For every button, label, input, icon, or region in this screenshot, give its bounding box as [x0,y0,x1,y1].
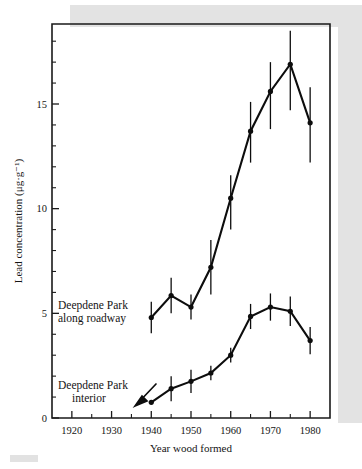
data-point-marker [268,89,273,94]
data-point-marker [208,370,213,375]
annotation-interior-line1: Deepdene Park [58,379,128,392]
y-tick-label: 5 [42,308,47,319]
x-tick-label: 1970 [260,425,281,436]
x-tick-label: 1930 [101,425,122,436]
annotation-roadway: Deepdene Park along roadway [58,299,128,325]
data-point-marker [248,129,253,134]
data-series-group [149,31,313,405]
data-point-marker [268,304,273,309]
x-axis-ticks [72,411,310,418]
y-tick-label: 10 [37,203,48,214]
annotation-interior: Deepdene Park interior [58,379,156,406]
data-point-marker [149,315,154,320]
data-point-marker [169,293,174,298]
y-axis-tick-labels: 051015 [37,99,48,424]
data-point-marker [228,196,233,201]
annotation-interior-arrow-head [135,396,147,406]
data-point-marker [188,379,193,384]
data-point-marker [288,62,293,67]
data-point-marker [248,314,253,319]
data-point-marker [188,304,193,309]
y-axis-title: Lead concentration (μg·g⁻¹) [12,158,25,283]
annotation-interior-line2: interior [72,392,106,404]
figure-page: 051015 1920193019401950196019701980 Deep… [0,0,362,469]
x-tick-label: 1980 [300,425,321,436]
series-roadway [149,31,313,333]
plot-frame [52,24,330,418]
data-point-marker [169,386,174,391]
x-tick-label: 1950 [181,425,202,436]
series-interior [149,293,313,404]
data-point-marker [308,338,313,343]
x-tick-label: 1920 [61,425,82,436]
y-tick-label: 15 [37,99,48,110]
x-tick-label: 1960 [220,425,241,436]
lead-concentration-chart: 051015 1920193019401950196019701980 Deep… [0,0,362,469]
data-point-marker [288,309,293,314]
y-tick-label: 0 [42,413,47,424]
data-point-marker [228,353,233,358]
y-axis-ticks [52,41,59,418]
x-axis-title: Year wood formed [150,442,232,454]
data-point-marker [149,400,154,405]
data-point-marker [208,265,213,270]
x-axis-tick-labels: 1920193019401950196019701980 [61,425,320,436]
annotation-roadway-line1: Deepdene Park [58,299,128,312]
x-tick-label: 1940 [141,425,162,436]
annotation-roadway-line2: along roadway [58,312,126,325]
data-point-marker [308,120,313,125]
